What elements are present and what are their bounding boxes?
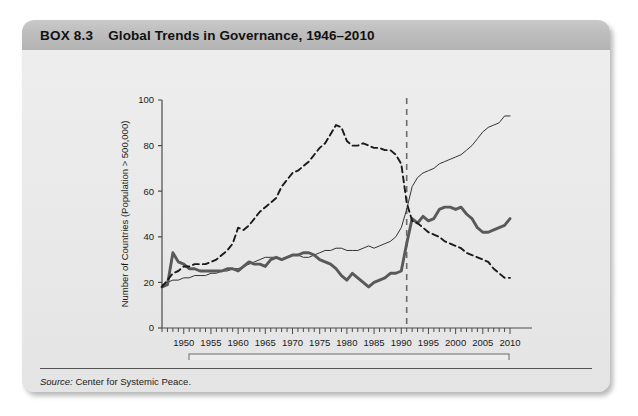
y-tick-label: 20 bbox=[143, 277, 154, 288]
x-tick-label: 1965 bbox=[255, 337, 276, 348]
x-tick-label: 1950 bbox=[173, 337, 194, 348]
box-panel: BOX 8.3 Global Trends in Governance, 194… bbox=[22, 20, 610, 392]
x-tick-label: 2010 bbox=[499, 337, 520, 348]
x-tick-label: 1960 bbox=[228, 337, 249, 348]
governance-trends-chart: 0204060801001950195519601965197019751980… bbox=[22, 50, 610, 360]
source-note: Source: Center for Systemic Peace. bbox=[40, 376, 191, 387]
x-tick-label: 1970 bbox=[282, 337, 303, 348]
x-tick-label: 1985 bbox=[363, 337, 384, 348]
y-tick-label: 40 bbox=[143, 231, 154, 242]
legend-label-democracies: Democracies bbox=[236, 359, 292, 360]
x-tick-label: 2000 bbox=[445, 337, 466, 348]
box-header: BOX 8.3 Global Trends in Governance, 194… bbox=[22, 20, 610, 50]
y-tick-label: 0 bbox=[149, 322, 154, 333]
y-tick-label: 80 bbox=[143, 140, 154, 151]
x-tick-label: 1980 bbox=[336, 337, 357, 348]
source-text: Center for Systemic Peace. bbox=[75, 376, 191, 387]
x-tick-label: 1975 bbox=[309, 337, 330, 348]
legend-label-autocracies: Autocracies bbox=[449, 359, 499, 360]
box-number: BOX 8.3 bbox=[40, 28, 93, 43]
x-tick-label: 1955 bbox=[200, 337, 221, 348]
x-tick-label: 1990 bbox=[391, 337, 412, 348]
source-label: Source: bbox=[40, 376, 73, 387]
source-divider bbox=[40, 368, 592, 369]
box-title: Global Trends in Governance, 1946–2010 bbox=[108, 28, 374, 43]
x-tick-label: 2005 bbox=[472, 337, 493, 348]
legend-label-anocracies: Anocracies bbox=[343, 359, 390, 360]
y-tick-label: 60 bbox=[143, 186, 154, 197]
y-axis-title: Number of Countries (Population > 500,00… bbox=[119, 121, 130, 308]
series-line-autocracies bbox=[162, 125, 510, 287]
screenshot-root: BOX 8.3 Global Trends in Governance, 194… bbox=[0, 0, 638, 416]
chart-area: 0204060801001950195519601965197019751980… bbox=[22, 50, 610, 360]
x-tick-label: 1995 bbox=[418, 337, 439, 348]
y-tick-label: 100 bbox=[138, 94, 154, 105]
series-line-democracies bbox=[162, 116, 510, 285]
series-line-anocracies bbox=[162, 207, 510, 287]
